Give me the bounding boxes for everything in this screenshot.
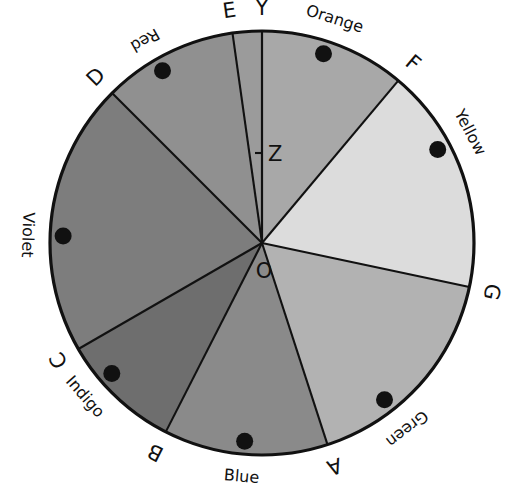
tick-label-z: Z (268, 142, 282, 166)
spoke-label-f: F (401, 50, 426, 76)
marker-dot-yellow (429, 141, 446, 158)
arc-label-yellow: Yellow (450, 105, 490, 158)
circle-sector-diagram: YFGABCDE OrangeYellowGreenBlueIndigoViol… (0, 0, 505, 487)
marker-dot-indigo (103, 365, 120, 382)
spoke-label-a: A (323, 453, 345, 480)
spoke-label-e: E (221, 0, 237, 23)
marker-dot-red (154, 62, 171, 79)
marker-dot-green (376, 391, 393, 408)
spoke-label-g: G (478, 281, 505, 302)
arc-label-blue: Blue (223, 465, 260, 487)
spoke-label-c: C (44, 348, 72, 373)
arc-label-red: Red (127, 25, 163, 57)
marker-dot-orange (315, 45, 332, 62)
spoke-label-b: B (143, 438, 167, 466)
marker-dot-blue (236, 433, 253, 450)
figure-canvas: YFGABCDE OrangeYellowGreenBlueIndigoViol… (0, 0, 505, 487)
spoke-label-y: Y (255, 0, 269, 20)
spoke-label-d: D (82, 63, 110, 91)
center-point-label-o: O (256, 259, 273, 283)
arc-label-violet: Violet (18, 212, 39, 258)
marker-dot-violet (55, 228, 72, 245)
arc-label-orange: Orange (304, 0, 366, 36)
